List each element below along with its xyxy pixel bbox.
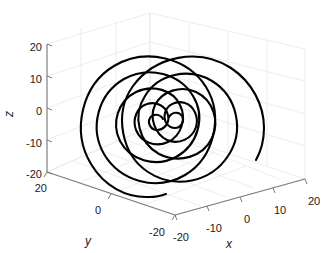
plot-canvas: 20 10 0 -10 -20 20 0 -20 -20 -10 0 10 20… bbox=[0, 0, 333, 253]
tick-marks bbox=[44, 44, 307, 220]
x-tick-labels: -20 -10 0 10 20 bbox=[173, 195, 320, 243]
axis-spines bbox=[47, 44, 305, 215]
z-tick-label: -10 bbox=[26, 137, 42, 149]
y-axis-line bbox=[47, 172, 175, 215]
y-tick-label: 0 bbox=[95, 204, 101, 216]
figure-3d-plot: 20 10 0 -10 -20 20 0 -20 -20 -10 0 10 20… bbox=[0, 0, 333, 253]
z-tick-label: 10 bbox=[30, 73, 42, 85]
z-axis-label: z bbox=[2, 111, 16, 118]
x-tick-label: -20 bbox=[173, 231, 189, 243]
y-tick-labels: 20 0 -20 bbox=[35, 182, 165, 238]
y-axis-label: y bbox=[84, 234, 92, 248]
series-lobe-left bbox=[81, 57, 215, 198]
series-lobe-right bbox=[122, 57, 264, 182]
x-tick-label: 0 bbox=[244, 213, 250, 225]
y-tick-label: 20 bbox=[35, 182, 47, 194]
x-tick-label: -10 bbox=[206, 222, 222, 234]
x-axis-label: x bbox=[225, 237, 233, 251]
z-tick-labels: 20 10 0 -10 -20 bbox=[26, 41, 42, 180]
z-tick-label: -20 bbox=[26, 168, 42, 180]
z-tick-label: 0 bbox=[36, 105, 42, 117]
x-tick-label: 20 bbox=[308, 195, 320, 207]
y-tick-label: -20 bbox=[149, 226, 165, 238]
x-tick-label: 10 bbox=[274, 204, 286, 216]
data-series-double-conical-helix bbox=[81, 57, 264, 198]
z-tick-label: 20 bbox=[30, 41, 42, 53]
